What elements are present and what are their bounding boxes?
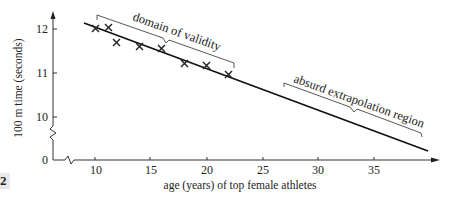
chart-svg: 12 11 10 0 10 15 20 25 30 35 100 m time … <box>0 0 456 197</box>
point-marker <box>113 39 120 46</box>
x-axis <box>53 156 440 164</box>
annotation-absurd: absurd extrapolation region <box>292 72 427 131</box>
fit-line <box>84 23 428 151</box>
y-tick-12: 12 <box>36 22 48 36</box>
x-tick-20: 20 <box>201 163 213 177</box>
x-tick-35: 35 <box>368 163 380 177</box>
x-tick-10: 10 <box>90 163 102 177</box>
y-tick-11: 11 <box>36 66 48 80</box>
x-tick-15: 15 <box>145 163 157 177</box>
x-tick-25: 25 <box>257 163 269 177</box>
y-axis <box>50 11 57 160</box>
x-tick-30: 30 <box>312 163 324 177</box>
figure-number-fragment: 2 <box>0 173 10 189</box>
x-axis-label: age (years) of top female athletes <box>164 179 317 192</box>
point-marker <box>105 24 112 31</box>
y-tick-labels: 12 11 10 0 <box>36 22 48 167</box>
y-tick-0: 0 <box>42 153 48 167</box>
x-tick-labels: 10 15 20 25 30 35 <box>90 163 380 177</box>
y-tick-10: 10 <box>36 110 48 124</box>
y-axis-label: 100 m time (seconds) <box>12 38 25 137</box>
